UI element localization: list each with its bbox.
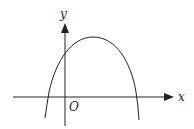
parabola-curve xyxy=(45,37,139,120)
parabola-diagram: y x O xyxy=(0,0,194,129)
origin-label: O xyxy=(69,100,79,114)
y-axis-label: y xyxy=(59,7,67,21)
x-axis-arrow-icon xyxy=(164,93,174,101)
x-axis-label: x xyxy=(178,90,185,104)
y-axis-arrow-icon xyxy=(61,23,69,33)
